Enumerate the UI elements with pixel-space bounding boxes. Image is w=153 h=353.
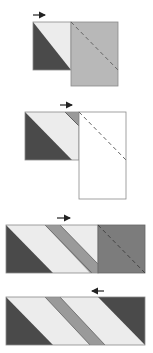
step-1: [33, 15, 118, 86]
step-2: [25, 105, 126, 199]
quilt-diagram: [0, 0, 153, 353]
white-rectangle: [79, 112, 126, 199]
step-4: [6, 291, 145, 345]
gray-rectangle: [71, 22, 118, 86]
step-3: [6, 218, 145, 273]
